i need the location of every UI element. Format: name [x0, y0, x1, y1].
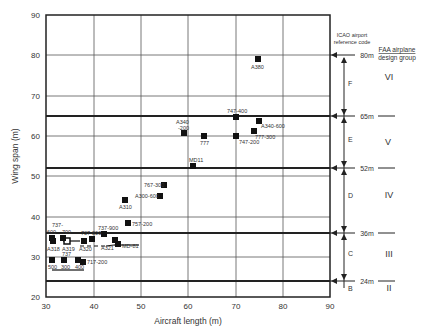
point-md11: [190, 163, 196, 169]
point-757-200: [125, 220, 131, 226]
svg-text:ICAO airport: ICAO airport: [337, 32, 368, 38]
svg-text:C: C: [348, 250, 353, 257]
point-737-800: [89, 236, 95, 242]
svg-text:A340-600: A340-600: [261, 123, 285, 129]
svg-text:MD-81: MD-81: [122, 243, 139, 249]
svg-text:700: 700: [62, 229, 71, 235]
svg-text:40: 40: [31, 213, 40, 222]
svg-text:737-800: 737-800: [81, 230, 101, 236]
wingspan-chart: 20 30 40 50 60 70 80 90 30 40 50 60 70 8…: [0, 0, 426, 334]
svg-text:70: 70: [31, 92, 40, 101]
svg-text:A300-600: A300-600: [135, 193, 159, 199]
svg-text:V: V: [385, 137, 391, 147]
svg-text:70: 70: [232, 302, 241, 311]
point-a310: [122, 197, 128, 203]
svg-text:50: 50: [137, 302, 146, 311]
svg-text:80: 80: [31, 51, 40, 60]
point-737-300: [61, 257, 67, 263]
svg-text:D: D: [348, 192, 353, 199]
y-tick-labels: 20 30 40 50 60 70 80 90: [31, 11, 40, 302]
y-axis-label: Wing span (m): [10, 128, 20, 183]
point-737-900: [101, 231, 107, 237]
svg-text:737-: 737-: [52, 222, 63, 228]
svg-text:767-300: 767-300: [144, 182, 164, 188]
icao-code-labels: F E D C B: [348, 80, 353, 292]
svg-text:90: 90: [31, 11, 40, 20]
svg-text:VI: VI: [385, 72, 394, 82]
svg-text:737: 737: [62, 251, 71, 257]
x-axis-label: Aircraft length (m): [154, 316, 222, 326]
svg-text:20: 20: [31, 293, 40, 302]
svg-text:717-200: 717-200: [87, 259, 107, 265]
svg-text:FAA airplane: FAA airplane: [379, 46, 416, 54]
svg-text:60: 60: [184, 302, 193, 311]
svg-text:90: 90: [326, 302, 335, 311]
point-747-400: [233, 114, 239, 120]
svg-text:36m: 36m: [360, 230, 374, 237]
point-a380: [255, 56, 261, 62]
point-a320: [81, 238, 87, 244]
point-737-500: [49, 257, 55, 263]
svg-text:A321: A321: [101, 245, 114, 251]
svg-text:30: 30: [42, 302, 51, 311]
svg-text:III: III: [385, 249, 393, 259]
icao-header: ICAO airport reference code: [334, 32, 371, 45]
svg-text:777: 777: [200, 140, 209, 146]
faa-group-labels: VI V IV III II: [385, 72, 394, 293]
svg-text:80: 80: [279, 302, 288, 311]
threshold-labels: 80m 65m 52m 36m 24m: [360, 52, 374, 285]
svg-text:A318: A318: [47, 246, 60, 252]
svg-text:52m: 52m: [360, 165, 374, 172]
svg-text:reference code: reference code: [334, 39, 371, 45]
svg-text:A310: A310: [119, 204, 132, 210]
svg-text:A380: A380: [251, 64, 264, 70]
svg-text:400: 400: [75, 264, 84, 270]
svg-text:40: 40: [90, 302, 99, 311]
point-737-700: [60, 235, 66, 241]
svg-text:60: 60: [31, 132, 40, 141]
svg-text:II: II: [386, 283, 391, 293]
svg-text:F: F: [348, 80, 352, 87]
svg-text:757-200: 757-200: [132, 221, 152, 227]
point-777: [201, 133, 207, 139]
svg-text:-200: -200: [178, 125, 189, 131]
faa-header: FAA airplane design group: [378, 46, 416, 62]
svg-text:500: 500: [48, 264, 57, 270]
svg-text:300: 300: [61, 264, 70, 270]
svg-text:E: E: [348, 136, 353, 143]
svg-text:MD11: MD11: [189, 157, 203, 163]
svg-text:65m: 65m: [360, 113, 374, 120]
svg-text:A320: A320: [79, 246, 92, 252]
svg-text:50: 50: [31, 172, 40, 181]
svg-text:747-200: 747-200: [239, 139, 259, 145]
svg-text:30: 30: [31, 253, 40, 262]
grid: [46, 15, 330, 297]
svg-text:747-400: 747-400: [227, 108, 247, 114]
svg-text:B: B: [348, 285, 353, 292]
svg-text:24m: 24m: [360, 278, 374, 285]
point-737-600: [49, 235, 55, 241]
svg-text:design group: design group: [378, 54, 416, 62]
svg-text:IV: IV: [385, 190, 394, 200]
x-tick-labels: 30 40 50 60 70 80 90: [42, 302, 335, 311]
svg-text:80m: 80m: [360, 52, 374, 59]
point-md81: [115, 241, 121, 247]
svg-text:600: 600: [47, 229, 56, 235]
